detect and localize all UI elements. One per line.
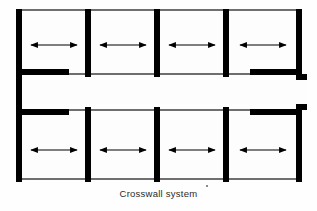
crosswall-3-bottom: [154, 107, 160, 182]
corridor-wall-bottom-left-segment: [22, 109, 69, 115]
room-fill-bottom-4: [229, 109, 296, 180]
corridor-fill: [22, 80, 307, 104]
crosswall-2-top: [85, 9, 91, 77]
figure-caption: Crosswall system: [0, 188, 317, 199]
floor-plan-drawing: Crosswall system floor plan diagram: [0, 0, 317, 211]
crosswall-5-end-wall-right-bottom: [296, 104, 302, 182]
room-fill-top-2: [91, 11, 154, 75]
corridor-wall-bottom-right-segment: [250, 109, 302, 115]
room-fill-bottom-3: [160, 109, 223, 180]
caption-footnote-marker: [206, 185, 208, 187]
room-fill-bottom-2: [91, 109, 154, 180]
corridor-wall-top-left-segment: [22, 69, 69, 75]
corridor-wall-top-right-segment: [250, 69, 302, 75]
room-fill-top-1: [22, 11, 85, 75]
crosswall-2-bottom: [85, 107, 91, 182]
corridor-notch-top: [296, 74, 307, 80]
crosswall-system-figure: Crosswall system floor plan diagram: [0, 0, 317, 211]
crosswall-3-top: [154, 9, 160, 77]
crosswall-4-bottom: [223, 107, 229, 182]
corridor-notch-bottom: [296, 104, 307, 110]
crosswall-1-end-wall-left: [16, 9, 22, 182]
room-fill-top-3: [160, 11, 223, 75]
room-fills: [22, 11, 307, 180]
room-fill-top-4: [229, 11, 296, 75]
room-fill-bottom-1: [22, 109, 85, 180]
crosswall-4-top: [223, 9, 229, 77]
